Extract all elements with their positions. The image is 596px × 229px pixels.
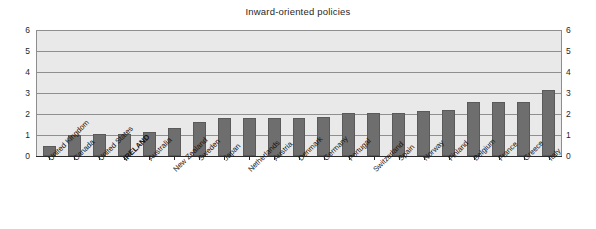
category-label: New Zealand xyxy=(172,168,178,174)
x-axis-tick xyxy=(99,157,100,160)
bar[interactable] xyxy=(367,113,380,156)
bar[interactable] xyxy=(243,118,256,156)
x-axis-tick xyxy=(474,157,475,160)
category-label: Netherlands xyxy=(247,168,253,174)
y-axis-left-tick-label: 5 xyxy=(6,47,30,56)
x-axis-tick xyxy=(399,157,400,160)
x-axis-tick xyxy=(274,157,275,160)
x-axis-tick xyxy=(499,157,500,160)
y-axis-right-tick-label: 2 xyxy=(566,110,590,119)
category-label: Switzerland xyxy=(372,168,378,174)
y-axis-right-tick-label: 6 xyxy=(566,26,590,35)
x-axis-tick xyxy=(524,157,525,160)
y-axis-right-tick-label: 5 xyxy=(566,47,590,56)
x-axis-tick xyxy=(124,157,125,160)
x-axis-tick xyxy=(374,157,375,160)
y-axis-right-tick-label: 3 xyxy=(566,89,590,98)
y-axis-right-tick-label: 1 xyxy=(566,131,590,140)
x-axis-tick xyxy=(424,157,425,160)
chart-title: Inward-oriented policies xyxy=(0,6,596,17)
y-axis-left-tick-label: 1 xyxy=(6,131,30,140)
y-axis-right-tick-label: 4 xyxy=(566,68,590,77)
x-axis-tick xyxy=(224,157,225,160)
x-axis-tick xyxy=(74,157,75,160)
x-axis-tick xyxy=(449,157,450,160)
x-axis-tick xyxy=(349,157,350,160)
y-axis-left-tick-label: 3 xyxy=(6,89,30,98)
y-axis-left-tick-label: 0 xyxy=(6,152,30,161)
x-axis-tick xyxy=(324,157,325,160)
y-axis-left-tick-label: 6 xyxy=(6,26,30,35)
y-axis-left-tick-label: 4 xyxy=(6,68,30,77)
x-axis-tick xyxy=(174,157,175,160)
x-axis-tick xyxy=(49,157,50,160)
x-axis-tick xyxy=(249,157,250,160)
x-axis-tick xyxy=(549,157,550,160)
x-axis-tick xyxy=(199,157,200,160)
x-axis-tick xyxy=(299,157,300,160)
y-axis-left-tick-label: 2 xyxy=(6,110,30,119)
x-axis-tick xyxy=(149,157,150,160)
y-axis-right-tick-label: 0 xyxy=(566,152,590,161)
category-labels-container: United KingdomCanadaUnited StatesIRELAND… xyxy=(37,157,561,229)
bar-chart: Inward-oriented policies United KingdomC… xyxy=(0,0,596,229)
